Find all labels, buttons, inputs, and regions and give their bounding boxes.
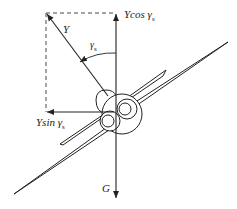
label-horizontal-component-text: Ysin γ [36,116,62,128]
engine-left-inner [102,115,114,127]
label-vertical-component-text: Ycos γ [124,8,152,20]
lift-vector-Y [47,14,108,96]
label-vertical-component: Ycos γs [124,9,155,23]
label-bank-angle-sub: s [94,45,97,53]
label-weight-G: G [102,183,110,194]
engine-right-inner [119,103,131,115]
bank-angle-arc [80,53,116,62]
label-lift-Y: Y [63,24,69,35]
label-horizontal-component-sub: s [62,123,65,131]
label-bank-angle: γs [90,40,97,53]
force-diagram [0,0,237,209]
label-vertical-component-sub: s [152,15,155,23]
label-horizontal-component: Ysin γs [36,117,65,131]
